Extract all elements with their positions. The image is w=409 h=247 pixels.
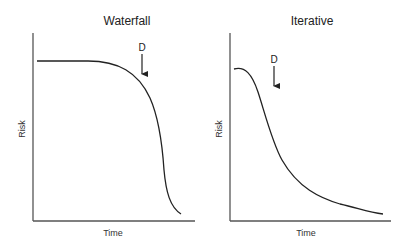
iterative-x-label: Time: [296, 228, 316, 238]
iterative-y-label: Risk: [214, 120, 224, 138]
iterative-d-label: D: [270, 54, 277, 65]
waterfall-x-label: Time: [103, 228, 123, 238]
iterative-risk-curve: [234, 68, 383, 214]
iterative-title: Iterative: [291, 14, 334, 28]
risk-comparison-diagram: Waterfall Risk Time D Iterative Risk Tim…: [0, 0, 409, 247]
waterfall-risk-curve: [37, 61, 181, 214]
iterative-chart: Iterative Risk Time D: [214, 14, 391, 238]
waterfall-y-label: Risk: [17, 120, 27, 138]
waterfall-chart: Waterfall Risk Time D: [17, 14, 195, 238]
waterfall-d-label: D: [138, 42, 145, 53]
waterfall-title: Waterfall: [104, 14, 151, 28]
